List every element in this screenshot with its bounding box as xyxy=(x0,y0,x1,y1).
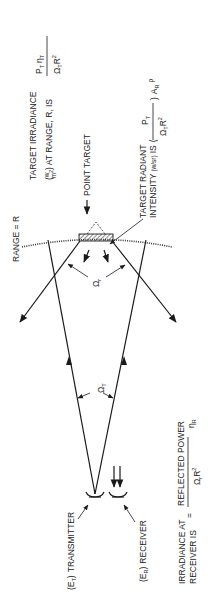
transmitter-symbol xyxy=(78,492,104,519)
beam-arrow-left xyxy=(66,356,72,365)
omega-t-indicator: ΩT xyxy=(78,383,113,398)
irradiance-receiver-line1: IRRADIANCE AT xyxy=(177,519,187,584)
radiant-denominator: ΩTR2 xyxy=(157,117,169,136)
receiver-arrow xyxy=(124,505,135,522)
point-target-label: POINT TARGET xyxy=(82,134,92,196)
target-radiant-intensity-text: TARGET RADIANT INTENSITY(w/sr)IS( PT ΩTR… xyxy=(138,79,169,219)
target-irradiance-text: TARGET IRRADIANCE (wm2) AT RANGE, R, IS … xyxy=(28,36,63,180)
radiant-heading: TARGET RADIANT xyxy=(138,145,148,218)
equals-sign: = xyxy=(184,513,194,518)
target-irradiance-denominator: ΩTR2 xyxy=(51,55,63,74)
point-target xyxy=(79,200,113,241)
omega-t-label: ΩT xyxy=(96,383,107,393)
target-irradiance-numerator: PTηT xyxy=(34,54,45,74)
irradiance-at-receiver-text: IRRADIANCE AT RECEIVER IS = REFLECTED PO… xyxy=(176,419,203,584)
radiant-intensity-leader xyxy=(110,219,143,244)
radiant-numerator: PT xyxy=(140,115,151,125)
target-irradiance-line2: (wm2) AT RANGE, R, IS xyxy=(43,99,57,180)
omega-r-indicator: Ωr xyxy=(68,264,125,287)
reflected-power-numerator: REFLECTED POWER xyxy=(176,421,186,506)
receiver-label: (ER)RECEIVER xyxy=(138,520,149,582)
transmit-beam xyxy=(48,240,146,494)
irradiance-receiver-line2: RECEIVER IS xyxy=(188,530,198,584)
eta-r: ηR xyxy=(186,419,197,428)
target-irradiance-heading: TARGET IRRADIANCE xyxy=(28,91,38,180)
transmitter-label: (ET)TRANSMITTER xyxy=(66,512,77,590)
target-dashed-outline xyxy=(87,222,105,234)
receiver-symbol xyxy=(109,466,135,522)
omega-r-label: Ωr xyxy=(91,279,102,287)
target-plate xyxy=(79,234,113,241)
radiant-tail: )ARρ xyxy=(147,79,160,101)
transmitter-arrow xyxy=(78,505,88,519)
radiant-line2: INTENSITY(w/sr)IS( xyxy=(148,139,158,218)
laser-radar-range-diagram: Ωr ΩT TARGET IRRADIANCE (wm2) AT RANGE, … xyxy=(0,0,220,614)
range-label: RANGE = R xyxy=(11,216,21,262)
irradiance-receiver-denominator: ΩrR2 xyxy=(191,468,203,485)
